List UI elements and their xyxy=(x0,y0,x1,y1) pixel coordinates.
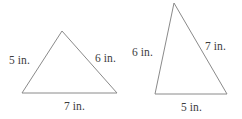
left-triangle-base-label: 7 in. xyxy=(64,100,85,112)
left-triangle-right-side-label: 6 in. xyxy=(95,52,116,64)
triangles-figure: 5 in. 6 in. 7 in. 6 in. 7 in. 5 in. xyxy=(0,0,242,119)
right-triangle-base-label: 5 in. xyxy=(181,101,202,113)
left-triangle-left-side-label: 5 in. xyxy=(9,54,30,66)
right-triangle-right-side-label: 7 in. xyxy=(205,40,226,52)
right-triangle-left-side-label: 6 in. xyxy=(132,46,153,58)
triangles-drawing xyxy=(0,0,242,119)
